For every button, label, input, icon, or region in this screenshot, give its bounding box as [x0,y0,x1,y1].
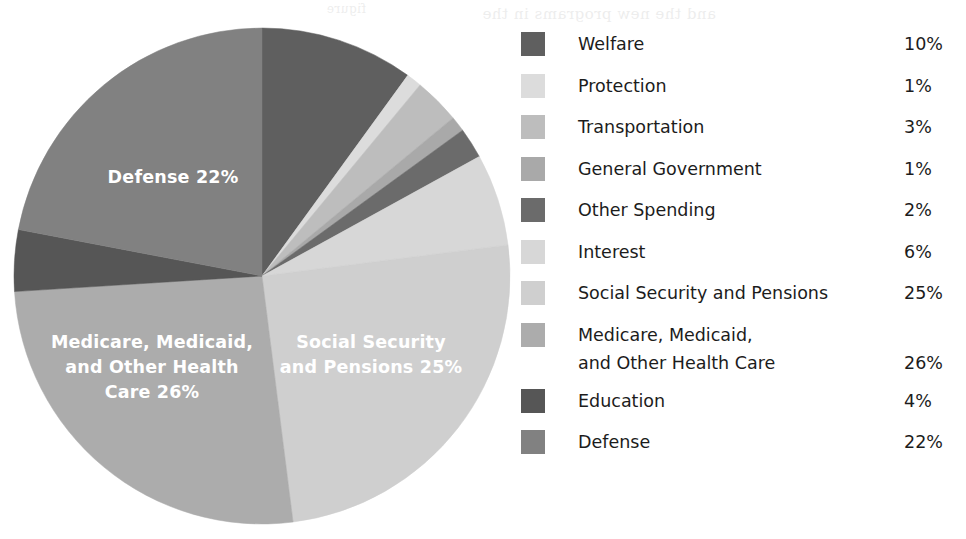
legend-swatch-icon [521,430,545,454]
legend-label: Education [578,384,904,415]
legend-swatch-icon [521,323,545,347]
legend-swatch-icon [521,389,545,413]
pie-label-social-security-line2: and Pensions 25% [280,357,463,377]
legend-value: 1% [904,152,966,183]
legend-swatch-icon [521,281,545,305]
legend-swatch-icon [521,74,545,98]
legend-label: Welfare [578,27,904,58]
legend-row: General Government1% [513,152,966,194]
legend-value: 1% [904,69,966,100]
chart-legend: Welfare10%Protection1%Transportation3%Ge… [513,27,966,522]
legend-row: Medicare, Medicaid, and Other Health Car… [513,318,966,384]
legend-row: Transportation3% [513,110,966,152]
legend-row: Defense22% [513,425,966,467]
legend-label: Medicare, Medicaid, and Other Health Car… [578,318,904,377]
legend-row: Interest6% [513,235,966,277]
legend-value: 6% [904,235,966,266]
legend-value: 26% [904,349,966,384]
legend-value: 10% [904,27,966,58]
pie-label-medicare-line3: Care 26% [105,382,200,402]
pie-label-social-security-line1: Social Security [296,332,446,352]
legend-row: Other Spending2% [513,193,966,235]
legend-row: Education4% [513,384,966,426]
pie-label-medicare-line1: Medicare, Medicaid, [51,332,253,352]
legend-swatch-icon [521,32,545,56]
legend-row: Social Security and Pensions25% [513,276,966,318]
legend-label: Protection [578,69,904,100]
legend-label: Other Spending [578,193,904,224]
legend-label: Transportation [578,110,904,141]
legend-label: Defense [578,425,904,456]
legend-value: 25% [904,276,966,307]
pie-slice-group [14,28,510,524]
pie-label-medicare-line2: and Other Health [65,357,239,377]
legend-row: Protection1% [513,69,966,111]
legend-row: Welfare10% [513,27,966,69]
legend-swatch-icon [521,198,545,222]
legend-swatch-icon [521,115,545,139]
legend-value: 22% [904,425,966,456]
pie-chart-svg: Defense 22% Social Security and Pensions… [0,18,520,534]
legend-swatch-icon [521,157,545,181]
legend-value: 2% [904,193,966,224]
legend-label: General Government [578,152,904,183]
legend-swatch-icon [521,240,545,264]
legend-value: 3% [904,110,966,141]
pie-label-defense: Defense 22% [108,167,239,187]
pie-slice [262,245,510,522]
legend-label: Interest [578,235,904,266]
legend-value: 4% [904,384,966,415]
legend-label: Social Security and Pensions [578,276,904,307]
pie-chart: Defense 22% Social Security and Pensions… [0,18,520,534]
